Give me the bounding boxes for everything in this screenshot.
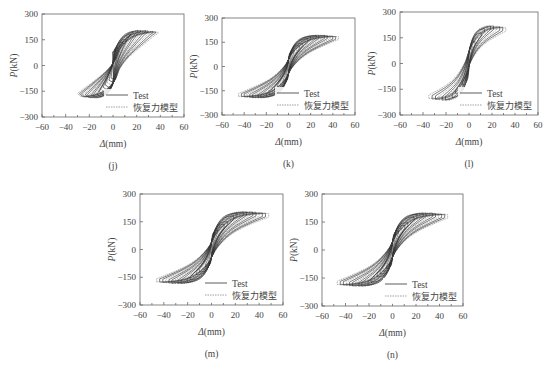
y-tick-label: −150 (377, 84, 396, 94)
chart-panel-n: 3001500−150−300−60−40−200204060Δ(mm)P(kN… (289, 189, 468, 361)
y-tick-label: 300 (123, 189, 137, 199)
legend-label: 恢复力模型 (232, 290, 277, 301)
y-tick-label: 300 (305, 189, 319, 199)
hysteresis-loops (78, 31, 159, 98)
x-tick-label: 40 (255, 310, 265, 320)
x-tick-label: 60 (279, 310, 289, 320)
x-tick-label: −40 (157, 310, 172, 320)
legend-label: Test (304, 89, 320, 99)
legend-label: Test (412, 280, 428, 290)
y-tick-label: −300 (199, 110, 218, 120)
y-tick-label: 150 (123, 217, 137, 227)
legend-label: 恢复力模型 (304, 100, 349, 111)
legend: Test恢复力模型 (458, 87, 536, 113)
hysteresis-loops (337, 213, 447, 286)
x-tick-label: 60 (351, 120, 361, 130)
y-tick-label: 300 (205, 13, 219, 23)
x-tick-label: 20 (306, 120, 316, 130)
y-axis-label: P(kN) (367, 52, 378, 77)
legend-label: Test (232, 279, 248, 289)
y-tick-label: −300 (299, 301, 318, 311)
x-tick-label: −60 (35, 122, 50, 132)
x-tick-label: 20 (412, 311, 422, 321)
x-tick-label: 20 (488, 120, 498, 130)
x-tick-label: −20 (259, 120, 274, 130)
x-tick-label: 60 (534, 120, 544, 130)
x-tick-label: 0 (467, 120, 472, 130)
y-axis-label: P(kN) (289, 238, 300, 263)
x-tick-label: −60 (393, 120, 408, 130)
x-tick-label: 60 (459, 311, 469, 321)
hysteresis-loops (157, 212, 269, 284)
x-tick-label: 60 (180, 122, 190, 132)
figure-canvas: 3001500−150−300−60−40−200204060Δ(mm)P(kN… (0, 0, 550, 369)
x-tick-label: 40 (156, 122, 166, 132)
x-tick-label: −40 (237, 120, 252, 130)
x-tick-label: −60 (215, 120, 230, 130)
panel-caption: (k) (283, 159, 294, 170)
x-axis-label: Δ(mm) (197, 327, 225, 338)
x-axis-label: Δ(mm) (455, 137, 483, 148)
legend: Test恢复力模型 (383, 278, 461, 304)
chart-panel-l: 3001500−150−300−60−40−200204060Δ(mm)P(kN… (367, 7, 543, 170)
panel-caption: (l) (465, 159, 474, 170)
x-tick-label: 40 (435, 311, 445, 321)
legend: Test恢复力模型 (104, 89, 182, 115)
y-tick-label: −150 (299, 273, 318, 283)
y-tick-label: 150 (205, 37, 219, 47)
y-tick-label: 150 (25, 35, 39, 45)
y-tick-label: 0 (214, 62, 219, 72)
y-tick-label: 150 (305, 217, 319, 227)
x-tick-label: −20 (181, 310, 196, 320)
y-tick-label: −150 (199, 86, 218, 96)
x-tick-label: −60 (315, 311, 330, 321)
x-tick-label: −20 (362, 311, 377, 321)
legend: Test恢复力模型 (275, 87, 353, 113)
y-tick-label: 300 (25, 9, 39, 19)
panel-caption: (j) (109, 161, 118, 172)
y-tick-label: 0 (34, 61, 39, 71)
y-tick-label: −150 (117, 272, 136, 282)
y-tick-label: −300 (19, 112, 38, 122)
x-tick-label: −40 (338, 311, 353, 321)
chart-panel-m: 3001500−150−300−60−40−200204060Δ(mm)P(kN… (107, 189, 288, 360)
chart-panel-k: 3001500−150−300−60−40−200204060Δ(mm)P(kN… (189, 13, 360, 170)
y-axis-label: P(kN) (9, 54, 20, 79)
x-tick-label: 40 (328, 120, 338, 130)
legend: Test恢复力模型 (203, 277, 281, 303)
y-tick-label: 300 (383, 7, 397, 17)
x-tick-label: 0 (390, 311, 395, 321)
x-tick-label: −40 (59, 122, 74, 132)
x-tick-label: 0 (209, 310, 214, 320)
x-tick-label: 20 (231, 310, 241, 320)
y-tick-label: 0 (392, 59, 397, 69)
x-tick-label: 40 (511, 120, 521, 130)
y-tick-label: 0 (314, 245, 319, 255)
x-tick-label: −60 (133, 310, 148, 320)
x-axis-label: Δ(mm) (378, 328, 406, 339)
y-tick-label: −300 (377, 110, 396, 120)
y-tick-label: −150 (19, 86, 38, 96)
x-tick-label: 0 (286, 120, 291, 130)
chart-panel-j: 3001500−150−300−60−40−200204060Δ(mm)P(kN… (9, 9, 189, 172)
panel-caption: (n) (387, 350, 398, 361)
y-tick-label: 0 (132, 245, 137, 255)
y-tick-label: −300 (117, 300, 136, 310)
y-axis-label: P(kN) (107, 238, 118, 263)
x-tick-label: 0 (111, 122, 116, 132)
x-tick-label: −20 (439, 120, 454, 130)
x-axis-label: Δ(mm) (274, 137, 302, 148)
x-tick-label: −40 (416, 120, 431, 130)
legend-label: Test (133, 91, 149, 101)
y-tick-label: 150 (383, 33, 397, 43)
x-axis-label: Δ(mm) (99, 139, 127, 150)
panel-caption: (m) (205, 349, 219, 360)
legend-label: 恢复力模型 (487, 100, 532, 111)
y-axis-label: P(kN) (189, 55, 200, 80)
x-tick-label: −20 (82, 122, 97, 132)
legend-label: 恢复力模型 (412, 291, 457, 302)
legend-label: Test (487, 89, 503, 99)
legend-label: 恢复力模型 (133, 102, 178, 113)
x-tick-label: 20 (132, 122, 142, 132)
